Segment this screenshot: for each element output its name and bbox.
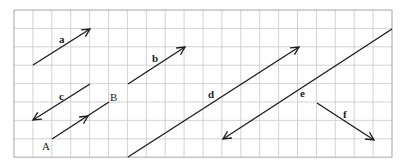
- vector-label-e: e: [300, 87, 305, 99]
- point-label-A: A: [42, 140, 50, 152]
- arrowhead-icon: [33, 112, 42, 120]
- point-label-B: B: [110, 91, 117, 103]
- arrowhead-icon: [176, 47, 185, 55]
- vector-label-a: a: [59, 33, 65, 45]
- vector-label-c: c: [59, 90, 64, 102]
- arrowhead-icon: [81, 29, 90, 37]
- vector-label-f: f: [343, 108, 347, 120]
- vector-label-b: b: [152, 52, 158, 64]
- vector-grid-diagram: abcdefAB: [0, 0, 405, 165]
- vector-label-d: d: [208, 88, 214, 100]
- arrowhead-icon: [223, 131, 232, 139]
- labels: abcdefAB: [42, 33, 347, 152]
- grid: [14, 10, 392, 157]
